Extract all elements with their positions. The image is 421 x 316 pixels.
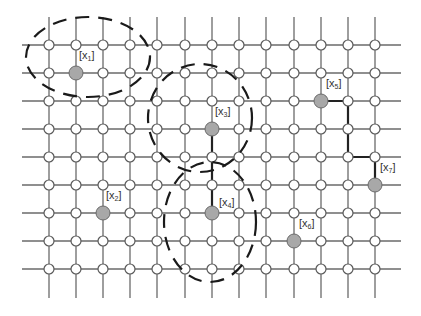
grid-node <box>207 180 217 190</box>
grid-node <box>152 40 162 50</box>
grid-node <box>71 236 81 246</box>
cluster-outlines <box>26 17 256 282</box>
anchor-label-x6: [x6] <box>299 218 315 230</box>
grid-node <box>343 40 353 50</box>
grid-node <box>98 68 108 78</box>
grid-node <box>370 68 380 78</box>
grid-node <box>234 208 244 218</box>
grid-node <box>125 96 135 106</box>
grid-node <box>316 152 326 162</box>
grid-node <box>180 40 190 50</box>
grid-node <box>261 180 271 190</box>
grid-node <box>289 208 299 218</box>
grid-node <box>152 180 162 190</box>
grid-node <box>152 96 162 106</box>
anchor-node-x2 <box>96 206 110 220</box>
grid-node <box>370 96 380 106</box>
grid-node <box>71 152 81 162</box>
grid-node <box>71 96 81 106</box>
grid-node <box>180 180 190 190</box>
grid-node <box>44 152 54 162</box>
grid-node <box>125 152 135 162</box>
grid-node <box>261 152 271 162</box>
grid-node <box>152 264 162 274</box>
grid-node <box>125 124 135 134</box>
grid-node <box>316 124 326 134</box>
grid-node <box>207 40 217 50</box>
grid-node <box>207 264 217 274</box>
grid-node <box>44 68 54 78</box>
grid-node <box>316 236 326 246</box>
grid-node <box>234 236 244 246</box>
grid-node <box>261 68 271 78</box>
grid-node <box>180 68 190 78</box>
anchor-label-x1: [x1] <box>79 50 95 62</box>
grid-node <box>180 124 190 134</box>
grid-node <box>152 208 162 218</box>
grid-node <box>343 236 353 246</box>
grid-node <box>125 264 135 274</box>
grid-node <box>289 264 299 274</box>
grid-node <box>44 96 54 106</box>
grid-node <box>180 96 190 106</box>
grid-node <box>343 264 353 274</box>
grid-node <box>261 40 271 50</box>
anchor-label-x4: [x4] <box>219 197 235 209</box>
grid-node <box>98 40 108 50</box>
grid-node <box>71 180 81 190</box>
grid-node <box>289 96 299 106</box>
grid-node <box>316 264 326 274</box>
grid-node <box>316 40 326 50</box>
grid-node <box>370 40 380 50</box>
grid-node <box>152 236 162 246</box>
grid-node <box>44 236 54 246</box>
anchor-label-x2: [x2] <box>106 190 122 202</box>
grid-node <box>98 152 108 162</box>
grid-node <box>98 96 108 106</box>
grid-node <box>44 180 54 190</box>
grid-node <box>125 180 135 190</box>
anchor-node-x5 <box>314 94 328 108</box>
grid-node <box>207 236 217 246</box>
grid-node <box>234 124 244 134</box>
grid-node <box>343 152 353 162</box>
grid-node <box>343 208 353 218</box>
grid-node <box>261 264 271 274</box>
grid-node <box>125 68 135 78</box>
grid-node <box>343 180 353 190</box>
grid-node <box>234 180 244 190</box>
grid-node <box>44 264 54 274</box>
anchor-node-x1 <box>69 66 83 80</box>
grid-node <box>71 208 81 218</box>
anchor-node-x3 <box>205 122 219 136</box>
grid-node <box>207 68 217 78</box>
anchor-label-x5: [x5] <box>326 78 342 90</box>
grid-node <box>125 40 135 50</box>
grid-node <box>343 96 353 106</box>
anchor-node-x6 <box>287 234 301 248</box>
grid-node <box>71 264 81 274</box>
grid-graph-diagram <box>0 0 421 316</box>
grid-node <box>180 152 190 162</box>
grid-node <box>234 68 244 78</box>
grid-node <box>152 68 162 78</box>
grid-node <box>343 124 353 134</box>
anchor-node-x7 <box>368 178 382 192</box>
grid-node <box>125 208 135 218</box>
grid-node <box>370 124 380 134</box>
grid-node <box>370 264 380 274</box>
grid-node <box>234 96 244 106</box>
grid-node <box>261 124 271 134</box>
grid-node <box>180 236 190 246</box>
grid-node <box>370 236 380 246</box>
grid-node <box>316 180 326 190</box>
grid-node <box>261 208 271 218</box>
grid-node <box>289 180 299 190</box>
anchor-label-x3: [x3] <box>215 106 231 118</box>
grid-node <box>44 124 54 134</box>
grid-node <box>234 152 244 162</box>
grid-node <box>98 264 108 274</box>
grid-node <box>261 236 271 246</box>
grid-node <box>289 152 299 162</box>
grid-node <box>207 152 217 162</box>
